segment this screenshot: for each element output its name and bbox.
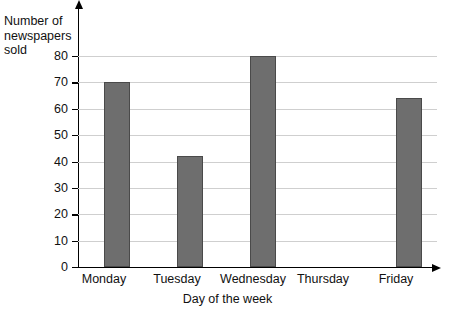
y-tick-label-80: 80 — [4, 50, 68, 63]
bar-wednesday — [250, 56, 276, 267]
y-axis-arrow-icon — [75, 0, 83, 9]
y-tick-30 — [72, 188, 78, 189]
x-tick-label-monday: Monday — [68, 272, 140, 286]
y-tick-label-40: 40 — [4, 156, 68, 169]
bar-tuesday — [177, 156, 203, 267]
y-tick-label-20: 20 — [4, 208, 68, 221]
y-tick-label-70: 70 — [4, 76, 68, 89]
x-tick-label-wednesday: Wednesday — [210, 272, 296, 286]
x-axis-line — [78, 267, 434, 268]
y-tick-label-60: 60 — [4, 103, 68, 116]
x-tick-label-friday: Friday — [360, 272, 432, 286]
y-tick-0 — [72, 267, 78, 268]
y-tick-70 — [72, 82, 78, 83]
x-tick-label-tuesday: Tuesday — [141, 272, 213, 286]
bar-friday — [396, 98, 422, 267]
y-tick-40 — [72, 162, 78, 163]
bar-chart: Number of newspapers sold 80 70 60 — [0, 0, 455, 313]
y-tick-label-30: 30 — [4, 182, 68, 195]
bar-monday — [104, 82, 130, 267]
y-tick-10 — [72, 241, 78, 242]
y-tick-label-10: 10 — [4, 235, 68, 248]
y-tick-80 — [72, 56, 78, 57]
y-tick-50 — [72, 135, 78, 136]
x-tick-label-thursday: Thursday — [287, 272, 359, 286]
x-axis-title: Day of the week — [0, 292, 455, 306]
y-tick-20 — [72, 214, 78, 215]
y-tick-label-50: 50 — [4, 129, 68, 142]
y-tick-label-0: 0 — [4, 261, 68, 274]
y-tick-60 — [72, 109, 78, 110]
plot-area — [78, 56, 437, 267]
